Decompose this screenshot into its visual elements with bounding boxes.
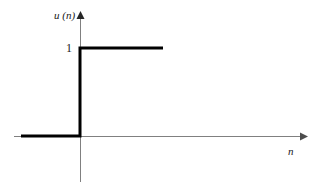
y-axis-arrowhead-icon [77, 11, 85, 19]
plot-canvas [0, 0, 313, 190]
y-axis-tick-label-1: 1 [66, 42, 72, 54]
x-axis-label: n [288, 146, 294, 157]
unit-step-curve [21, 48, 163, 136]
y-axis-label: u (n) [54, 10, 75, 21]
unit-step-function-figure: u (n) n 1 [0, 0, 313, 190]
x-axis-arrowhead-icon [300, 133, 308, 141]
